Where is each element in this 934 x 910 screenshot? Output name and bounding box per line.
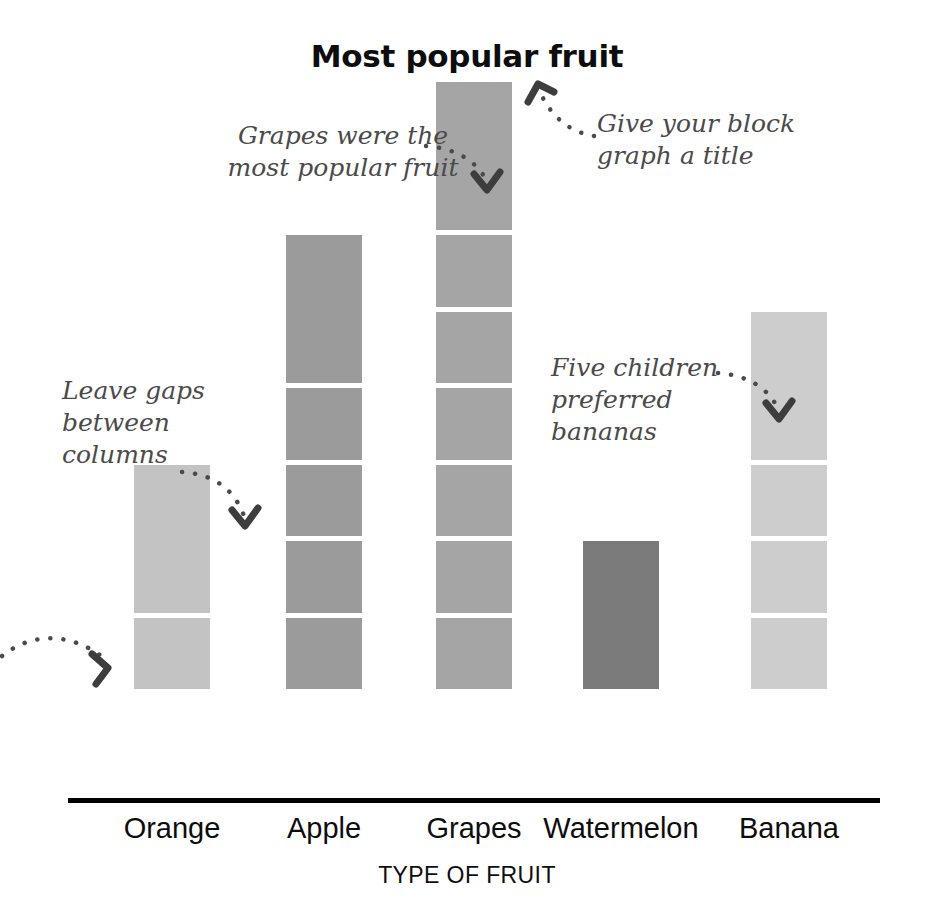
x-axis-line bbox=[68, 798, 880, 803]
bar-block bbox=[751, 541, 827, 618]
bar-block bbox=[134, 465, 210, 542]
bar-block bbox=[436, 235, 512, 312]
block-graph-worksheet: Most popular fruit Orange Apple Grapes W… bbox=[0, 0, 934, 910]
annotation-grapes-text: Grapes were the most popular fruit bbox=[183, 120, 503, 184]
x-axis-title: TYPE OF FRUIT bbox=[0, 862, 934, 889]
annotation-title-hint-text: Give your block graph a title bbox=[597, 108, 897, 172]
bar-block bbox=[751, 465, 827, 542]
bar-watermelon bbox=[583, 541, 659, 694]
bar-orange bbox=[134, 465, 210, 695]
bar-block bbox=[436, 388, 512, 465]
bar-block bbox=[134, 541, 210, 618]
bar-block bbox=[751, 618, 827, 695]
bar-block bbox=[286, 235, 362, 312]
bar-block bbox=[436, 312, 512, 389]
bar-block bbox=[436, 618, 512, 695]
bar-block bbox=[286, 465, 362, 542]
bar-block bbox=[286, 618, 362, 695]
bar-block bbox=[286, 541, 362, 618]
bar-block bbox=[583, 541, 659, 618]
annotation-gaps-text: Leave gaps between columns bbox=[62, 375, 312, 471]
bar-block bbox=[583, 618, 659, 695]
bar-block bbox=[134, 618, 210, 695]
x-axis-label-banana: Banana bbox=[679, 812, 899, 845]
bar-block bbox=[436, 541, 512, 618]
annotation-bananas-text: Five children preferred bananas bbox=[551, 352, 801, 448]
bar-block bbox=[436, 465, 512, 542]
